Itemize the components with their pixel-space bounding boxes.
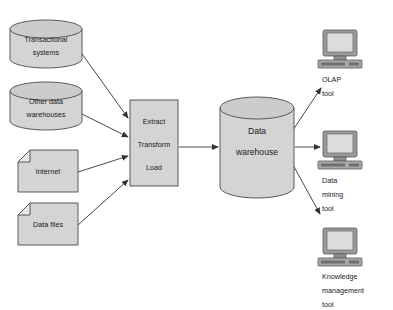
source-label-line-2: warehouses — [26, 110, 66, 119]
tool-label-line-1: Knowledge — [322, 272, 358, 281]
source-label-line-1: Transactional — [25, 35, 68, 44]
connector-transactional-to-etl — [80, 51, 128, 118]
source-node-data-files: Data files — [18, 203, 78, 245]
source-label-line-1: Internet — [36, 167, 60, 176]
connector-warehouse-to-knowledge — [293, 165, 320, 214]
connector-warehouse-to-olap — [293, 88, 321, 130]
connectors-sources-to-etl — [78, 51, 128, 225]
etl-label-transform: Transform — [138, 140, 170, 149]
cylinder-top — [220, 97, 294, 119]
connector-data-files-to-etl — [78, 180, 128, 225]
connectors-warehouse-to-tools — [293, 88, 321, 214]
source-label-line-1: Other data — [29, 97, 63, 106]
tool-label-line-1: OLAP — [322, 75, 341, 84]
tool-label-line-1: Data — [322, 176, 337, 185]
source-node-transactional-systems: Transactional systems — [10, 20, 82, 68]
etl-label-load: Load — [146, 163, 162, 172]
etl-label-extract: Extract — [143, 117, 165, 126]
tool-label-line-2: management — [322, 286, 364, 295]
computer-icon — [318, 30, 362, 68]
process-node-etl: Extract Transform Load — [130, 100, 178, 186]
tool-node-knowledge-management-tool: Knowledge management tool — [318, 228, 364, 309]
computer-icon — [318, 131, 362, 169]
document-fold-corner — [18, 203, 30, 215]
tool-node-data-mining-tool: Data mining tool — [318, 131, 362, 213]
tool-node-olap-tool: OLAP tool — [318, 30, 362, 98]
tool-label-line-2: mining — [322, 190, 343, 199]
tool-label-line-3: tool — [322, 204, 334, 213]
connector-internet-to-etl — [78, 156, 128, 172]
tool-label-line-3: tool — [322, 300, 334, 309]
diagram-canvas: Transactional systems Other data warehou… — [0, 0, 393, 310]
warehouse-label-line-1: Data — [248, 126, 266, 136]
data-warehouse-diagram: Transactional systems Other data warehou… — [0, 0, 393, 310]
source-label-line-2: systems — [33, 48, 60, 57]
warehouse-node-data-warehouse: Data warehouse — [220, 97, 294, 198]
computer-icon — [318, 228, 362, 266]
tool-label-line-2: tool — [322, 89, 334, 98]
source-node-internet: Internet — [18, 150, 78, 192]
source-label-line-1: Data files — [33, 220, 63, 229]
document-fold-corner — [18, 150, 30, 162]
source-node-other-data-warehouses: Other data warehouses — [10, 82, 82, 130]
connector-other-warehouses-to-etl — [80, 113, 128, 137]
warehouse-label-line-2: warehouse — [235, 147, 278, 157]
